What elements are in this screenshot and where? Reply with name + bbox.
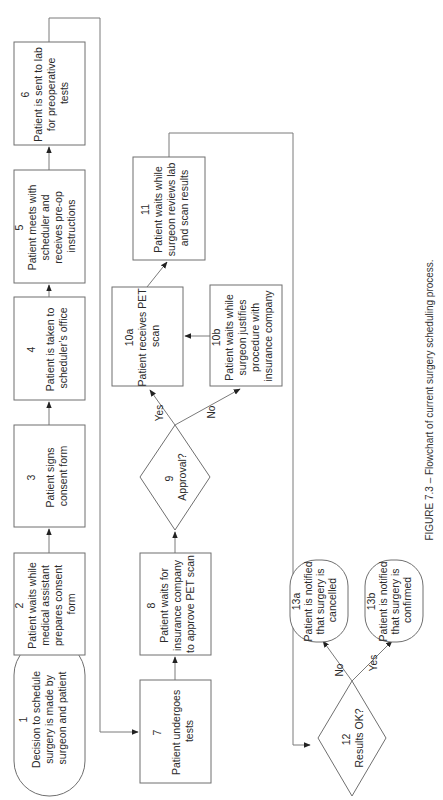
node-5: 5 Patient meets with scheduler and recei… <box>13 170 85 283</box>
node-7: 7 Patient undergoes tests <box>140 680 211 783</box>
edge-label-approval-yes: Yes <box>154 405 165 421</box>
node-1: 1 Decision to schedule surgery is made b… <box>14 640 85 796</box>
node-12: 12 Results OK? <box>318 681 386 796</box>
node-6: 6 Patient is sent to lab for preoperativ… <box>14 42 85 145</box>
node-13a: 13a Patient is notified that surgery is … <box>290 559 348 642</box>
edge-label-results-no: No <box>334 663 345 676</box>
edge-label-approval-no: No <box>206 405 217 418</box>
figure-caption: FIGURE 7.3 – Flowchart of current surger… <box>424 259 435 540</box>
node-8: 8 Patient waits for insurance company to… <box>140 553 211 655</box>
node-13b: 13b Patient is notified that surgery is … <box>365 559 423 642</box>
edge-label-results-yes: Yes <box>368 655 379 671</box>
edge-10a-11 <box>147 262 167 287</box>
flowchart-figure: Yes No No Yes 1 Decision to schedule sur… <box>0 0 443 800</box>
node-9: 9 Approval? <box>140 425 210 530</box>
node-10b: 10b Patient waits while surgeon justifie… <box>210 285 282 386</box>
node-11: 11 Patient waits while surgeon reviews l… <box>133 157 205 260</box>
node-2: 2 Patient waits while medical assistant … <box>13 553 85 655</box>
node-4: 4 Patient is taken to scheduler’s office <box>14 297 85 400</box>
node-3: 3 Patient signs consent form <box>14 425 85 527</box>
node-10a: 10a Patient receives PET scan <box>112 286 183 387</box>
flowchart-svg: Yes No No Yes 1 Decision to schedule sur… <box>0 0 443 800</box>
